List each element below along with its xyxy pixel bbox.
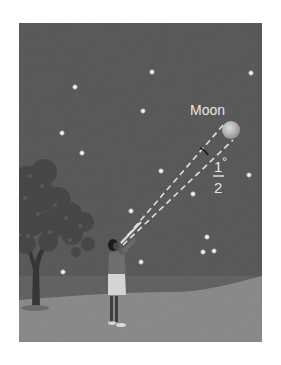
angle-denominator: 2 — [214, 179, 222, 196]
star-core — [202, 251, 205, 254]
star-core — [192, 193, 195, 196]
degree-symbol: ° — [222, 154, 227, 169]
star-core — [142, 110, 145, 113]
star-core — [74, 86, 77, 89]
star-core — [151, 71, 154, 74]
star-core — [81, 152, 84, 155]
star-core — [250, 72, 253, 75]
star-core — [213, 250, 216, 253]
star-core — [62, 271, 65, 274]
star-core — [248, 174, 251, 177]
moon-label: Moon — [190, 102, 225, 118]
moon — [222, 121, 240, 139]
star-core — [206, 236, 209, 239]
moon-angular-size-illustration: Moon 1 ° 2 — [0, 0, 281, 365]
star-core — [160, 170, 163, 173]
star-core — [140, 261, 143, 264]
star-core — [130, 210, 133, 213]
star-core — [61, 132, 64, 135]
